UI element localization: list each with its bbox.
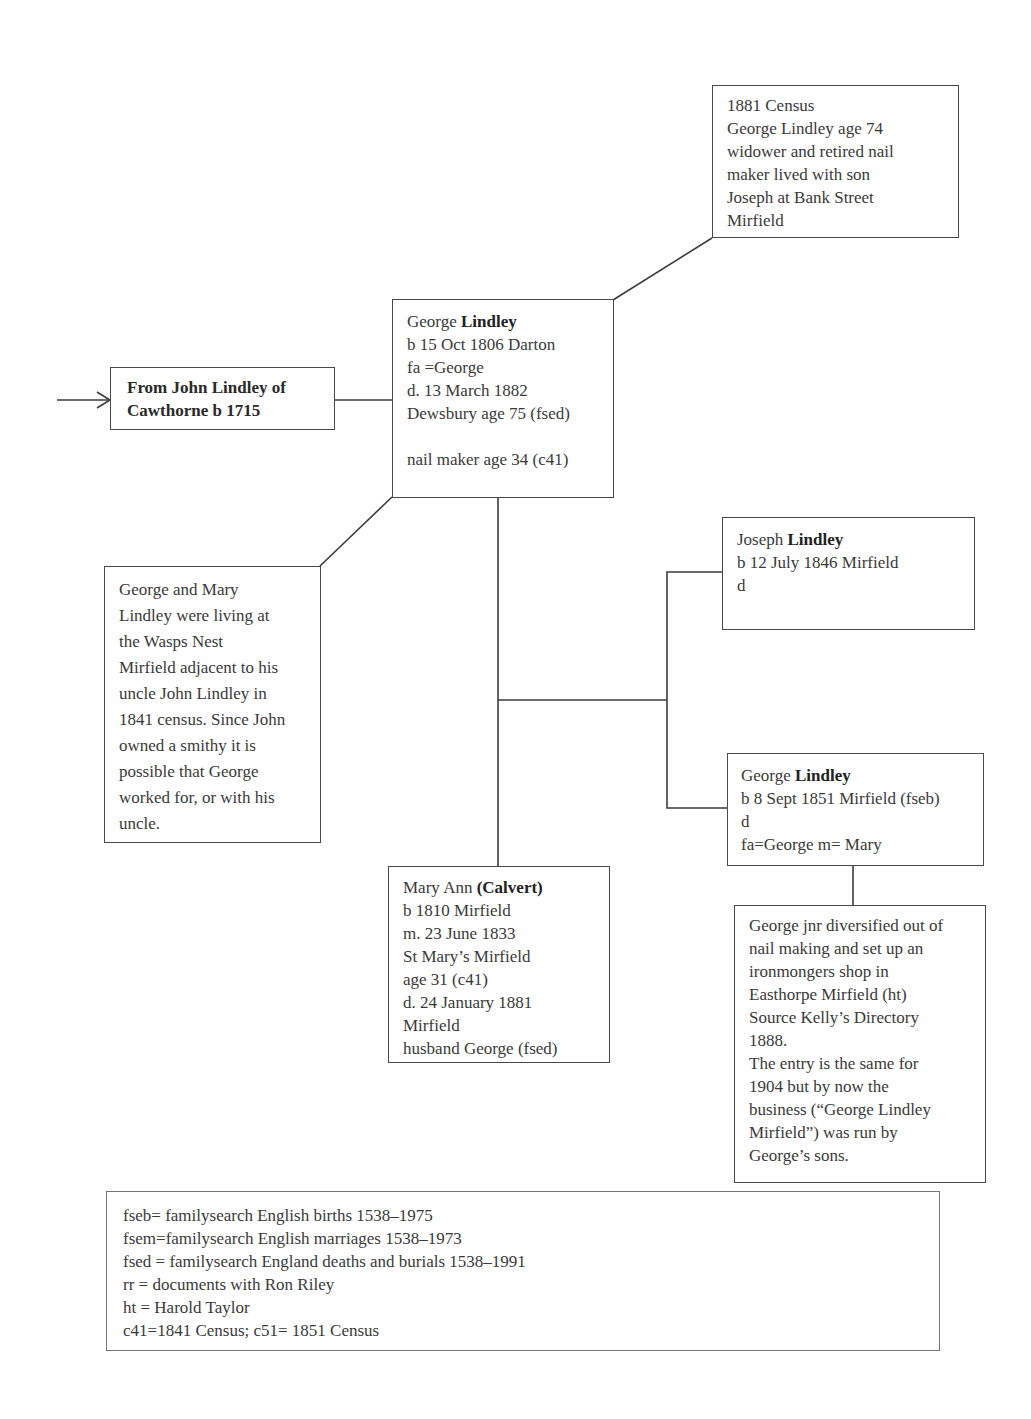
first-name: George [407, 312, 461, 331]
note-line: business (“George Lindley [749, 1098, 985, 1121]
person-name: Joseph Lindley [737, 528, 974, 551]
note-ironmonger: George jnr diversified out of nail makin… [734, 905, 986, 1183]
person-detail: husband George (fsed) [403, 1037, 609, 1060]
person-detail: b 12 July 1846 Mirfield [737, 551, 974, 574]
note-line: George and Mary [119, 577, 320, 603]
surname: Lindley [461, 312, 517, 331]
person-george-sr: George Lindley b 15 Oct 1806 Darton fa =… [392, 299, 614, 498]
surname: Lindley [795, 766, 851, 785]
note-line: 1841 census. Since John [119, 707, 320, 733]
note-line: Mirfield”) was run by [749, 1121, 985, 1144]
person-detail: fa=George m= Mary [741, 833, 983, 856]
census-1881-box: 1881 Census George Lindley age 74 widowe… [712, 85, 959, 238]
ancestor-box: From John Lindley of Cawthorne b 1715 [110, 367, 335, 430]
note-line: the Wasps Nest [119, 629, 320, 655]
legend-line: fsed = familysearch England deaths and b… [123, 1250, 939, 1273]
first-name: Joseph [737, 530, 788, 549]
person-george-jr: George Lindley b 8 Sept 1851 Mirfield (f… [727, 753, 984, 866]
note-line: George jnr diversified out of [749, 914, 985, 937]
person-name: George Lindley [741, 764, 983, 787]
person-mary-ann: Mary Ann (Calvert) b 1810 Mirfield m. 23… [388, 866, 610, 1063]
person-detail: d. 13 March 1882 [407, 379, 613, 402]
first-name: George [741, 766, 795, 785]
person-detail: b 8 Sept 1851 Mirfield (fseb) [741, 787, 983, 810]
person-detail: d [737, 574, 974, 597]
person-detail: b 1810 Mirfield [403, 899, 609, 922]
person-detail: Dewsbury age 75 (fsed) [407, 402, 613, 425]
person-detail: Mirfield [403, 1014, 609, 1037]
note-line: uncle John Lindley in [119, 681, 320, 707]
person-detail: m. 23 June 1833 [403, 922, 609, 945]
person-name: George Lindley [407, 310, 613, 333]
note-line: possible that George [119, 759, 320, 785]
person-joseph: Joseph Lindley b 12 July 1846 Mirfield d [722, 517, 975, 630]
sources-legend: fseb= familysearch English births 1538–1… [106, 1191, 940, 1351]
legend-line: c41=1841 Census; c51= 1851 Census [123, 1319, 939, 1342]
census-line: Mirfield [727, 209, 946, 232]
person-detail: d [741, 810, 983, 833]
person-detail: b 15 Oct 1806 Darton [407, 333, 613, 356]
legend-line: fsem=familysearch English marriages 1538… [123, 1227, 939, 1250]
person-detail: St Mary’s Mirfield [403, 945, 609, 968]
person-detail: d. 24 January 1881 [403, 991, 609, 1014]
legend-line: rr = documents with Ron Riley [123, 1273, 939, 1296]
note-line: 1904 but by now the [749, 1075, 985, 1098]
ancestor-line: From John Lindley of [127, 376, 334, 399]
census-line: widower and retired nail [727, 140, 946, 163]
note-line: 1888. [749, 1029, 985, 1052]
note-line: Lindley were living at [119, 603, 320, 629]
census-line: maker lived with son [727, 163, 946, 186]
note-line: owned a smithy it is [119, 733, 320, 759]
surname: (Calvert) [477, 878, 543, 897]
census-line: 1881 Census [727, 94, 946, 117]
note-1841-census: George and Mary Lindley were living at t… [104, 566, 321, 843]
note-line: worked for, or with his [119, 785, 320, 811]
note-line: Mirfield adjacent to his [119, 655, 320, 681]
legend-line: ht = Harold Taylor [123, 1296, 939, 1319]
person-detail: age 31 (c41) [403, 968, 609, 991]
note-line: George’s sons. [749, 1144, 985, 1167]
legend-line: fseb= familysearch English births 1538–1… [123, 1204, 939, 1227]
surname: Lindley [788, 530, 844, 549]
person-name: Mary Ann (Calvert) [403, 876, 609, 899]
first-name: Mary Ann [403, 878, 477, 897]
person-detail [407, 425, 613, 448]
note-line: Source Kelly’s Directory [749, 1006, 985, 1029]
note-line: uncle. [119, 811, 320, 837]
note-line: Easthorpe Mirfield (ht) [749, 983, 985, 1006]
note-line: The entry is the same for [749, 1052, 985, 1075]
census-line: George Lindley age 74 [727, 117, 946, 140]
note-line: nail making and set up an [749, 937, 985, 960]
note-line: ironmongers shop in [749, 960, 985, 983]
person-detail: fa =George [407, 356, 613, 379]
census-line: Joseph at Bank Street [727, 186, 946, 209]
ancestor-line: Cawthorne b 1715 [127, 399, 334, 422]
person-detail: nail maker age 34 (c41) [407, 448, 613, 471]
